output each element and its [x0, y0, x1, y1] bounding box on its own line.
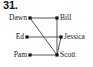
graph-node-bill: [55, 16, 58, 19]
edges-layer: [27, 18, 61, 55]
node-label-scott: Scott: [60, 51, 75, 59]
graph-figure: 31. DawnBillEdJessicaPamScott: [0, 0, 93, 67]
node-label-ed: Ed: [16, 33, 24, 41]
node-label-pam: Pam: [14, 51, 27, 59]
graph-node-dawn: [28, 16, 31, 19]
node-label-dawn: Dawn: [9, 14, 27, 22]
graph-node-ed: [25, 35, 28, 38]
node-label-jessica: Jessica: [64, 33, 85, 41]
node-label-bill: Bill: [60, 14, 71, 22]
graph-node-scott: [55, 53, 58, 56]
graph-node-pam: [28, 53, 31, 56]
graph-node-jessica: [59, 35, 62, 38]
